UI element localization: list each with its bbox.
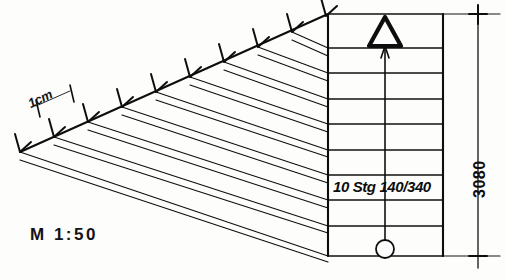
overall-rise-label: 3080 [471,160,489,198]
start-circle-icon [376,240,394,258]
walking-direction-arrow [381,46,389,244]
stair-note-label: 10 Stg 140/340 [333,178,431,195]
scale-label: M 1:50 [30,225,98,245]
drawing-canvas: 1cm M 1:50 10 Stg 140/340 3080 [0,0,506,280]
overall-rise-dimension [443,5,500,268]
step-tick-marks [15,0,337,152]
triangle-up-icon [369,17,401,46]
